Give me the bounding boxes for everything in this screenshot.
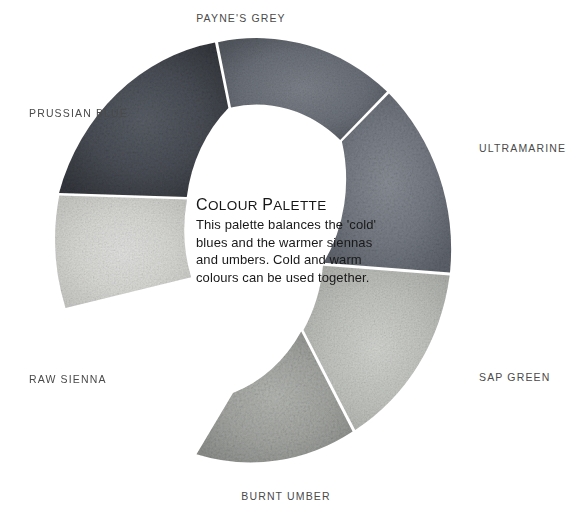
caption-line-1: This palette balances the 'cold' — [196, 216, 381, 234]
label-paynes-grey: PAYNE'S GREY — [196, 12, 286, 24]
caption-title-cap-p: P — [262, 196, 273, 213]
caption-title-rest-1: OLOUR — [208, 198, 262, 213]
segment-raw-sienna[interactable] — [55, 196, 191, 309]
label-raw-sienna: RAW SIENNA — [29, 373, 107, 385]
label-burnt-umber: BURNT UMBER — [241, 490, 330, 502]
label-prussian-blue: PRUSSIAN BLUE — [29, 107, 128, 119]
caption-line-3: and umbers. Cold and warm — [196, 251, 381, 269]
label-sap-green: SAP GREEN — [479, 371, 550, 383]
caption-title: COLOUR PALETTE — [196, 196, 381, 214]
caption-line-4: colours can be used together. — [196, 269, 381, 287]
caption-line-2: blues and the warmer siennas — [196, 234, 381, 252]
caption-block: COLOUR PALETTE This palette balances the… — [196, 196, 381, 286]
caption-title-rest-2: ALETTE — [273, 198, 326, 213]
segment-prussian-blue[interactable] — [59, 43, 228, 198]
caption-title-cap-c: C — [196, 196, 208, 213]
label-ultramarine: ULTRAMARINE — [479, 142, 566, 154]
caption-body: This palette balances the 'cold' blues a… — [196, 216, 381, 286]
